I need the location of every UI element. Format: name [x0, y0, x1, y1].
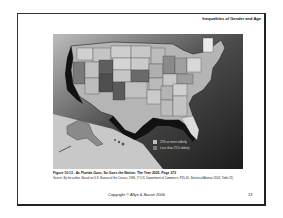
slide: Inequalities of Gender and Age [17, 13, 266, 206]
copyright-footer: Copyright © Allyn & Bacon 2006 [108, 192, 165, 197]
legend-item-less-than-25: Less than 25% elderly [153, 145, 190, 150]
legend-swatch [153, 140, 157, 144]
slide-header-title: Inequalities of Gender and Age [202, 16, 261, 21]
figure-caption: Figure 10.13 - As Florida Goes, So Goes … [53, 171, 176, 175]
map-legend: 25% or more elderly Less than 25% elderl… [153, 139, 190, 151]
page-number: 13 [248, 192, 252, 197]
figure-source: Source: By the author. Based on U.S. Bur… [53, 176, 233, 180]
us-elderly-population-map: 25% or more elderly Less than 25% elderl… [53, 34, 243, 169]
legend-swatch [153, 146, 157, 150]
legend-item-25-or-more: 25% or more elderly [153, 139, 190, 144]
